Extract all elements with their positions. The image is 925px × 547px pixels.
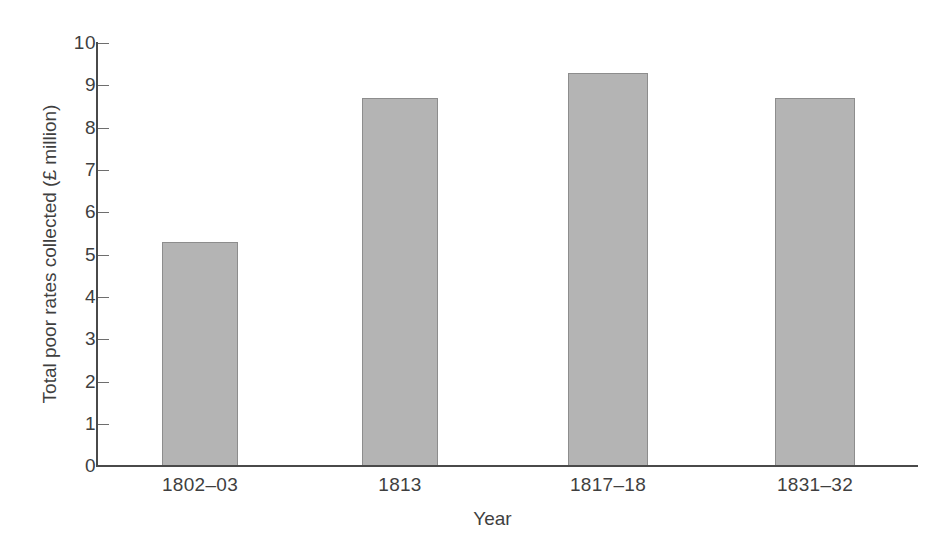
x-axis-title: Year: [0, 508, 925, 530]
x-axis-title-text: Year: [473, 508, 511, 529]
y-tick-2: [98, 382, 109, 383]
y-tick-4: [98, 297, 109, 298]
y-tick-label-0: 0: [62, 456, 96, 475]
y-tick-label-4: 4: [62, 287, 96, 306]
y-tick-label-6: 6: [62, 202, 96, 221]
y-tick-label-7: 7: [62, 160, 96, 179]
y-axis-title: Total poor rates collected (£ million): [39, 44, 61, 464]
y-tick-label-8: 8: [62, 118, 96, 137]
y-tick-3: [98, 339, 109, 340]
x-tick-label-1831-32: 1831–32: [745, 475, 885, 496]
y-tick-label-9: 9: [62, 75, 96, 94]
y-tick-label-5: 5: [62, 245, 96, 264]
bar-1813: [362, 98, 438, 466]
y-tick-9: [98, 85, 109, 86]
y-tick-label-10: 10: [62, 33, 96, 52]
y-tick-5: [98, 255, 109, 256]
x-tick-label-1802-03: 1802–03: [130, 475, 270, 496]
y-tick-6: [98, 212, 109, 213]
x-tick-label-1817-18: 1817–18: [538, 475, 678, 496]
y-tick-label-1: 1: [62, 414, 96, 433]
y-tick-1: [98, 424, 109, 425]
y-tick-8: [98, 128, 109, 129]
y-tick-label-3: 3: [62, 329, 96, 348]
bar-1802-03: [162, 242, 238, 466]
x-tick-label-1813: 1813: [330, 475, 470, 496]
y-tick-7: [98, 170, 109, 171]
bar-1831-32: [775, 98, 855, 466]
bar-1817-18: [568, 73, 648, 466]
x-axis-line: [96, 465, 918, 467]
y-tick-label-2: 2: [62, 372, 96, 391]
y-tick-10: [98, 43, 109, 44]
bar-chart-figure: 10 9 8 7 6 5 4 3 2: [0, 0, 925, 547]
plot-area: 10 9 8 7 6 5 4 3 2: [0, 0, 925, 547]
